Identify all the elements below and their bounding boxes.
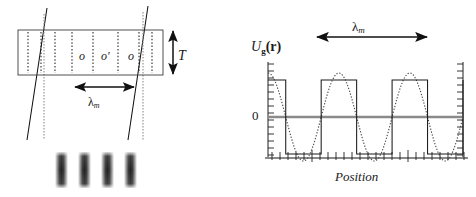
zone-label-o-left: o: [79, 50, 85, 62]
y-axis-label-argument: (r): [266, 39, 282, 54]
x-axis-label: Position: [335, 170, 378, 183]
medium-slab-rect: [18, 30, 163, 75]
lambda-label-left: λm: [88, 96, 100, 110]
y-axis-right-ticks: [457, 64, 463, 155]
figure-svg: [0, 0, 476, 197]
thickness-label: T: [178, 49, 186, 63]
zone-label-o-prime: o′: [101, 50, 110, 62]
zone-label-o-right: o: [128, 50, 134, 62]
lambda-subscript-right: m: [358, 25, 365, 35]
fringe-bar-softmask: [124, 152, 137, 188]
y-axis-zero-tick-label: 0: [252, 109, 259, 122]
fringe-bar-softmask: [55, 152, 68, 188]
right-panel-group: [265, 37, 468, 162]
x-axis-ticks: [272, 150, 464, 162]
figure-canvas: o o′ o T λm Ug(r) 0 λm Position: [0, 0, 476, 197]
fringe-bar-softmask: [101, 152, 114, 188]
y-axis-label: Ug(r): [251, 40, 281, 56]
lambda-subscript-left: m: [94, 101, 100, 110]
y-axis-label-symbol: U: [251, 39, 261, 54]
lambda-label-right: λm: [352, 20, 365, 35]
fringe-bar-softmask: [78, 152, 91, 188]
fringe-pattern-group: [55, 152, 137, 188]
